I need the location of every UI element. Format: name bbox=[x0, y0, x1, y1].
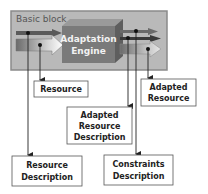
adapted-resource-label-line1: Adapted bbox=[149, 83, 187, 92]
ard-label-line1: Adapted bbox=[80, 111, 118, 120]
junction-dot bbox=[126, 36, 130, 40]
adapted-resource-description-box: Adapted Resource Description bbox=[67, 107, 132, 144]
resource-description-box: Resource Description bbox=[12, 156, 82, 186]
ard-label-line3: Description bbox=[74, 133, 126, 142]
cd-label-line1: Constraints bbox=[112, 160, 164, 169]
adaptation-engine: Adaptation Engine bbox=[60, 19, 123, 63]
constraints-description-box: Constraints Description bbox=[104, 155, 173, 185]
junction-dot bbox=[26, 31, 30, 35]
adapted-resource-label-line2: Resource bbox=[148, 94, 190, 103]
resource-box: Resource bbox=[34, 81, 88, 97]
rd-label-line1: Resource bbox=[26, 161, 68, 170]
engine-label-line1: Adaptation bbox=[60, 34, 116, 44]
adaptation-diagram: Basic block Adaptation Engine bbox=[0, 0, 208, 194]
junction-dot bbox=[134, 29, 138, 33]
junction-dot bbox=[146, 47, 150, 51]
basic-block-label: Basic block bbox=[16, 14, 67, 24]
junction-dot bbox=[38, 43, 42, 47]
rd-label-line2: Description bbox=[21, 173, 73, 182]
adapted-resource-box: Adapted Resource bbox=[141, 79, 196, 106]
engine-label-line2: Engine bbox=[71, 46, 106, 56]
ard-label-line2: Resource bbox=[79, 122, 121, 131]
engine-top-face bbox=[62, 19, 123, 26]
resource-label: Resource bbox=[40, 85, 82, 94]
engine-front-face bbox=[62, 26, 115, 63]
cd-label-line2: Description bbox=[113, 172, 165, 181]
